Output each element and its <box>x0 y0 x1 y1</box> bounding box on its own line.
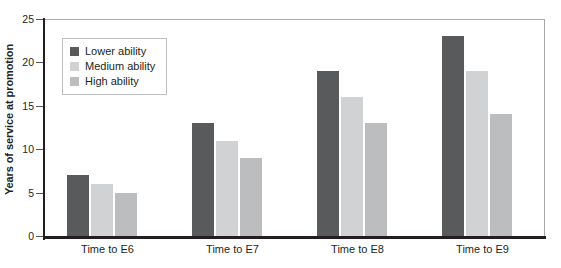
bar <box>317 71 339 236</box>
y-tick-mark <box>36 149 43 150</box>
x-axis-line <box>43 236 546 239</box>
y-tick-label-text: 0 <box>0 231 34 241</box>
bar <box>365 123 387 236</box>
y-axis-title: Years of service at promotion <box>2 7 16 232</box>
bar <box>192 123 214 236</box>
y-tick-label: 20 <box>0 57 34 67</box>
bar <box>442 36 464 236</box>
bar <box>240 158 262 236</box>
y-tick-label-text: 5 <box>0 188 34 198</box>
bar-chart: Years of service at promotion 0510152025… <box>0 0 561 268</box>
x-axis-category-label: Time to E8 <box>295 243 420 256</box>
bar-group <box>295 19 420 236</box>
legend-item: Medium ability <box>70 59 155 74</box>
bar <box>466 71 488 236</box>
bar <box>490 114 512 236</box>
legend-item-label: High ability <box>85 75 139 88</box>
y-tick-label: 5 <box>0 188 34 198</box>
y-tick-mark <box>36 106 43 107</box>
x-axis-category-label: Time to E6 <box>45 243 170 256</box>
bar <box>115 193 137 236</box>
legend-swatch-icon <box>70 77 79 86</box>
y-tick-label-text: 15 <box>0 101 34 111</box>
legend-swatch-icon <box>70 62 79 71</box>
legend-item-label: Medium ability <box>85 60 155 73</box>
bar-group <box>170 19 295 236</box>
y-tick-mark <box>36 236 43 237</box>
y-tick-label: 10 <box>0 144 34 154</box>
y-tick-label: 0 <box>0 231 34 241</box>
x-axis-category-label: Time to E9 <box>420 243 545 256</box>
bar <box>67 175 89 236</box>
y-tick-mark <box>36 193 43 194</box>
legend: Lower abilityMedium abilityHigh ability <box>62 38 167 95</box>
y-tick-label-text: 20 <box>0 57 34 67</box>
bar-group <box>420 19 545 236</box>
y-tick-label-text: 25 <box>0 14 34 24</box>
y-tick-label: 25 <box>0 14 34 24</box>
y-tick-label-text: 10 <box>0 144 34 154</box>
legend-item: High ability <box>70 74 155 89</box>
bar <box>91 184 113 236</box>
y-tick-label: 15 <box>0 101 34 111</box>
legend-item: Lower ability <box>70 44 155 59</box>
y-tick-mark <box>36 62 43 63</box>
bar <box>341 97 363 236</box>
y-tick-mark <box>36 19 43 20</box>
x-axis-category-label: Time to E7 <box>170 243 295 256</box>
bar <box>216 141 238 236</box>
legend-item-label: Lower ability <box>85 45 146 58</box>
legend-swatch-icon <box>70 47 79 56</box>
